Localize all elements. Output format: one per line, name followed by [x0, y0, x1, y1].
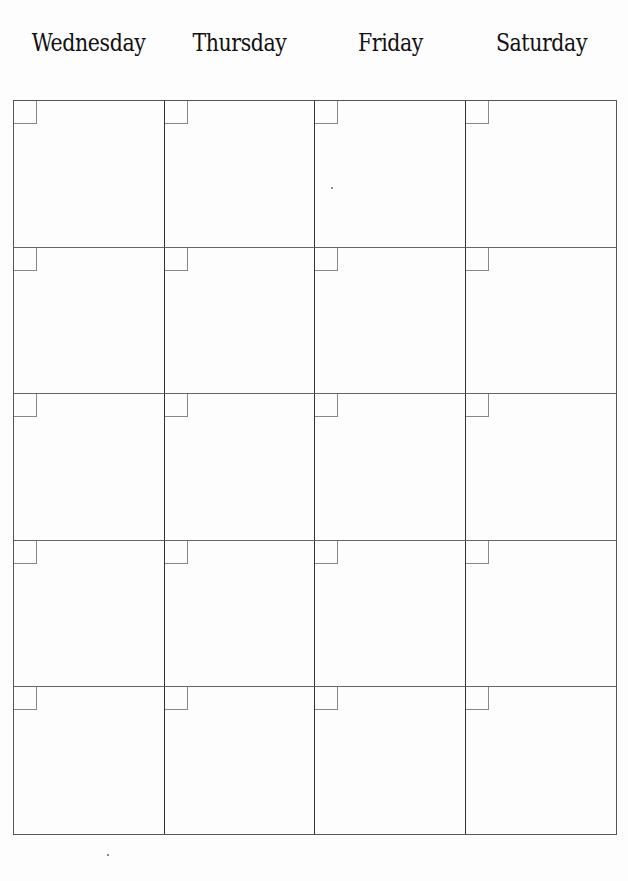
- calendar-cell[interactable]: [165, 687, 316, 834]
- date-box[interactable]: [315, 394, 338, 417]
- date-box[interactable]: [14, 541, 37, 564]
- calendar-cell[interactable]: [466, 687, 617, 834]
- date-box[interactable]: [165, 248, 188, 271]
- date-box[interactable]: [466, 687, 489, 710]
- date-box[interactable]: [466, 248, 489, 271]
- calendar-cell[interactable]: [315, 248, 466, 395]
- date-box[interactable]: [466, 541, 489, 564]
- calendar-cell[interactable]: [466, 101, 617, 248]
- date-box[interactable]: [315, 248, 338, 271]
- calendar-cell[interactable]: [14, 687, 165, 834]
- calendar-cell[interactable]: [466, 248, 617, 395]
- calendar-cell[interactable]: [14, 394, 165, 541]
- scan-speck: [107, 854, 109, 856]
- calendar-grid: [13, 100, 617, 835]
- calendar-cell[interactable]: [165, 248, 316, 395]
- calendar-cell[interactable]: [315, 541, 466, 688]
- weekday-header: Wednesday Thursday Friday Saturday: [13, 28, 617, 72]
- scan-speck: [331, 187, 333, 189]
- date-box[interactable]: [165, 101, 188, 124]
- calendar-cell[interactable]: [466, 541, 617, 688]
- date-box[interactable]: [315, 541, 338, 564]
- date-box[interactable]: [165, 394, 188, 417]
- calendar-cell[interactable]: [315, 101, 466, 248]
- calendar-cell[interactable]: [14, 101, 165, 248]
- calendar-cell[interactable]: [165, 541, 316, 688]
- date-box[interactable]: [165, 687, 188, 710]
- calendar-cell[interactable]: [466, 394, 617, 541]
- date-box[interactable]: [466, 101, 489, 124]
- date-box[interactable]: [14, 394, 37, 417]
- calendar-cell[interactable]: [165, 394, 316, 541]
- calendar-cell[interactable]: [14, 541, 165, 688]
- date-box[interactable]: [14, 101, 37, 124]
- date-box[interactable]: [14, 687, 37, 710]
- day-label-wednesday: Wednesday: [27, 28, 151, 57]
- day-label-thursday: Thursday: [178, 28, 302, 57]
- date-box[interactable]: [14, 248, 37, 271]
- calendar-cell[interactable]: [315, 394, 466, 541]
- calendar-cell[interactable]: [14, 248, 165, 395]
- date-box[interactable]: [466, 394, 489, 417]
- calendar-cell[interactable]: [165, 101, 316, 248]
- day-label-saturday: Saturday: [480, 28, 604, 57]
- calendar-cell[interactable]: [315, 687, 466, 834]
- date-box[interactable]: [165, 541, 188, 564]
- date-box[interactable]: [315, 101, 338, 124]
- day-label-friday: Friday: [329, 28, 453, 57]
- date-box[interactable]: [315, 687, 338, 710]
